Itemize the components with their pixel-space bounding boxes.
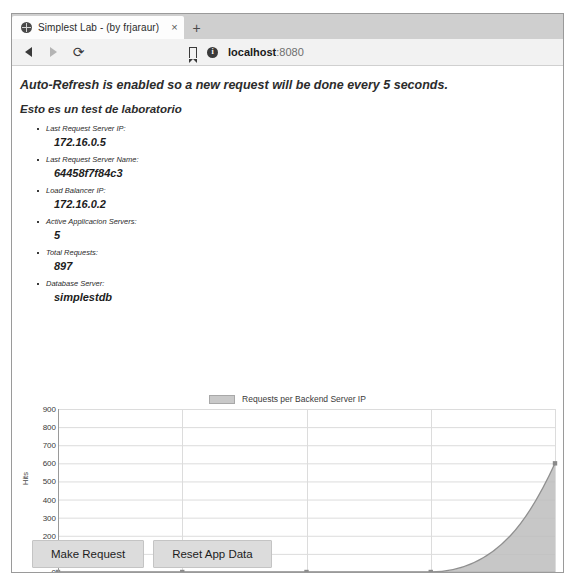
back-button[interactable] [16,41,41,63]
list-item-label: Load Balancer IP: [46,186,563,195]
browser-window: Simplest Lab - (by frjaraur) × + ⟳ i loc… [11,13,564,573]
browser-tab[interactable]: Simplest Lab - (by frjaraur) × [12,16,184,39]
list-item-value: 172.16.0.5 [54,136,563,148]
chart-legend: Requests per Backend Server IP [12,391,563,407]
new-tab-button[interactable]: + [184,16,210,39]
url-text: localhost:8080 [228,46,304,58]
tab-strip: Simplest Lab - (by frjaraur) × + [12,14,563,39]
list-item-label: Last Request Server IP: [46,124,563,133]
list-item-value: 64458f7f84c3 [54,167,563,179]
bookmark-icon[interactable] [189,47,197,58]
address-bar[interactable]: i localhost:8080 [91,39,559,65]
chart-data-point [180,570,184,572]
close-icon[interactable]: × [171,22,177,33]
reset-app-data-button[interactable]: Reset App Data [153,540,272,568]
action-button-row: Make Request Reset App Data [12,540,563,568]
y-axis-tick-label: 700 [43,441,56,450]
legend-label: Requests per Backend Server IP [242,394,366,404]
chart-data-point [429,570,433,572]
legend-swatch [209,395,235,404]
y-axis-tick-label: 0 [52,568,56,573]
forward-button[interactable] [41,41,66,63]
y-axis-tick-label: 500 [43,477,56,486]
list-item-value: 5 [54,229,563,241]
y-axis-tick-label: 600 [43,459,56,468]
reload-button[interactable]: ⟳ [66,41,91,63]
y-axis-tick-label: 300 [43,513,56,522]
globe-icon [21,22,32,33]
forward-arrow-icon [50,47,57,57]
url-port: :8080 [276,46,304,58]
list-item-label: Last Request Server Name: [46,155,563,164]
reload-icon: ⟳ [73,45,85,59]
list-item-label: Total Requests: [46,248,563,257]
list-item-value: simplestdb [54,291,563,303]
page-subheadline: Esto es un test de laboratorio [20,103,563,115]
y-axis-tick-label: 400 [43,495,56,504]
back-arrow-icon [25,47,32,57]
url-host: localhost [228,46,276,58]
make-request-button[interactable]: Make Request [32,540,144,568]
site-info-icon[interactable]: i [207,47,218,58]
list-item-label: Database Server: [46,279,563,288]
chart-data-point [553,461,557,465]
list-item-label: Active Applicacion Servers: [46,217,563,226]
page-content: Auto-Refresh is enabled so a new request… [12,66,563,572]
y-axis-tick-label: 900 [43,405,56,414]
y-axis-tick-label: 800 [43,423,56,432]
chart-data-point [304,570,308,572]
server-info-list: Last Request Server IP: 172.16.0.5 Last … [12,124,563,303]
browser-toolbar: ⟳ i localhost:8080 [12,39,563,66]
y-axis-tick-label: 200 [43,531,56,540]
list-item-value: 172.16.0.2 [54,198,563,210]
page-headline: Auto-Refresh is enabled so a new request… [20,78,563,92]
tab-title: Simplest Lab - (by frjaraur) [38,22,159,33]
list-item-value: 897 [54,260,563,272]
